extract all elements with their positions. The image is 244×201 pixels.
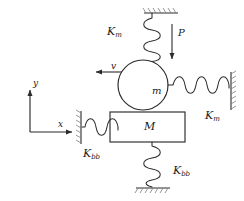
spring-label-left: Kbb — [83, 148, 100, 160]
spring-top — [144, 13, 161, 62]
spring-bottom — [144, 142, 161, 187]
spring-label-top: Km — [107, 26, 122, 38]
mechanical-system-diagram: Km P v m Km M Kbb Kbb y x — [0, 0, 244, 201]
velocity-label-v: v — [111, 62, 116, 71]
diagram-canvas — [0, 0, 244, 201]
ceiling-support — [143, 8, 178, 13]
spring-label-bottom: Kbb — [173, 165, 190, 177]
spring-label-right: Km — [205, 110, 220, 122]
right-wall-support — [231, 71, 236, 110]
axis-label-x: x — [58, 120, 63, 129]
mass-label-m: m — [152, 86, 161, 96]
axis-label-y: y — [33, 79, 38, 88]
spring-right — [168, 77, 229, 94]
force-label-P: P — [178, 28, 185, 38]
coordinate-axes — [30, 90, 72, 132]
left-wall-support — [76, 110, 81, 144]
mass-label-M: M — [144, 121, 155, 132]
ground-support — [135, 188, 170, 193]
